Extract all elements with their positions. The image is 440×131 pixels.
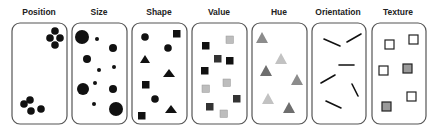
panel-value	[192, 23, 247, 124]
label-size: Size	[90, 7, 107, 17]
panel-size	[72, 23, 127, 124]
panel-orientation	[312, 23, 366, 124]
panel-hue	[252, 23, 307, 124]
label-position: Position	[22, 7, 56, 17]
panel-shape	[132, 23, 187, 124]
label-orientation: Orientation	[315, 7, 360, 17]
label-value: Value	[208, 7, 230, 17]
label-shape: Shape	[146, 7, 172, 17]
label-hue: Hue	[271, 7, 287, 17]
panel-texture	[372, 23, 426, 124]
panel-position	[12, 23, 67, 124]
visual-variables-diagram: Position Size Shape Value Hue Orientatio…	[0, 0, 440, 131]
label-texture: Texture	[383, 7, 413, 17]
